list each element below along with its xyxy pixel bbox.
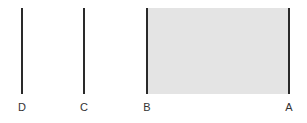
label-d: D [12, 101, 32, 114]
line-a [288, 8, 290, 94]
label-c: C [74, 101, 94, 114]
line-d [21, 8, 23, 94]
line-b [146, 8, 148, 94]
label-a: A [279, 101, 299, 114]
line-c [83, 8, 85, 94]
shaded-region-b-to-a [147, 8, 289, 94]
label-b: B [137, 101, 157, 114]
